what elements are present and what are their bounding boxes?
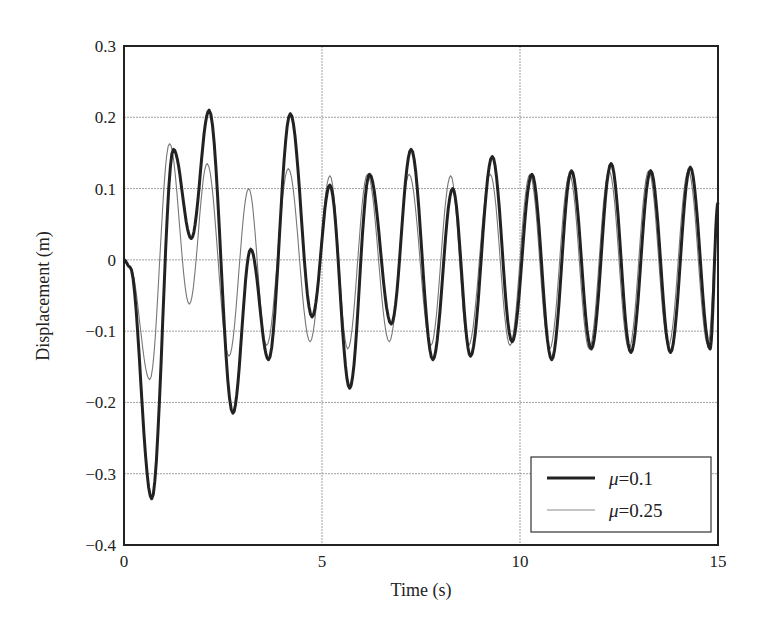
legend: μ=0.1 μ=0.25: [531, 457, 711, 532]
x-axis-label: Time (s): [391, 580, 452, 601]
y-tick-label: −0.2: [85, 393, 116, 412]
y-tick-label: −0.1: [85, 322, 116, 341]
y-axis-ticks: 0.30.20.10−0.1−0.2−0.3−0.4: [85, 37, 116, 555]
legend-label-mu-0-25: μ=0.25: [608, 500, 663, 521]
y-axis-label: Displacement (m): [33, 231, 54, 360]
y-tick-label: 0.3: [95, 37, 116, 56]
y-tick-label: 0.1: [95, 180, 116, 199]
series-line: [124, 110, 718, 499]
x-tick-label: 0: [120, 552, 129, 571]
y-tick-label: −0.3: [85, 465, 116, 484]
y-tick-label: 0.2: [95, 108, 116, 127]
x-axis-ticks: 051015: [120, 552, 727, 571]
y-tick-label: −0.4: [85, 536, 116, 555]
displacement-chart: 0.30.20.10−0.1−0.2−0.3−0.4 051015 Time (…: [0, 0, 758, 631]
x-tick-label: 10: [512, 552, 529, 571]
legend-label-mu-0-1: μ=0.1: [608, 468, 653, 489]
plot-curves: [124, 110, 718, 499]
y-tick-label: 0: [108, 251, 117, 270]
x-tick-label: 15: [710, 552, 727, 571]
x-tick-label: 5: [318, 552, 327, 571]
